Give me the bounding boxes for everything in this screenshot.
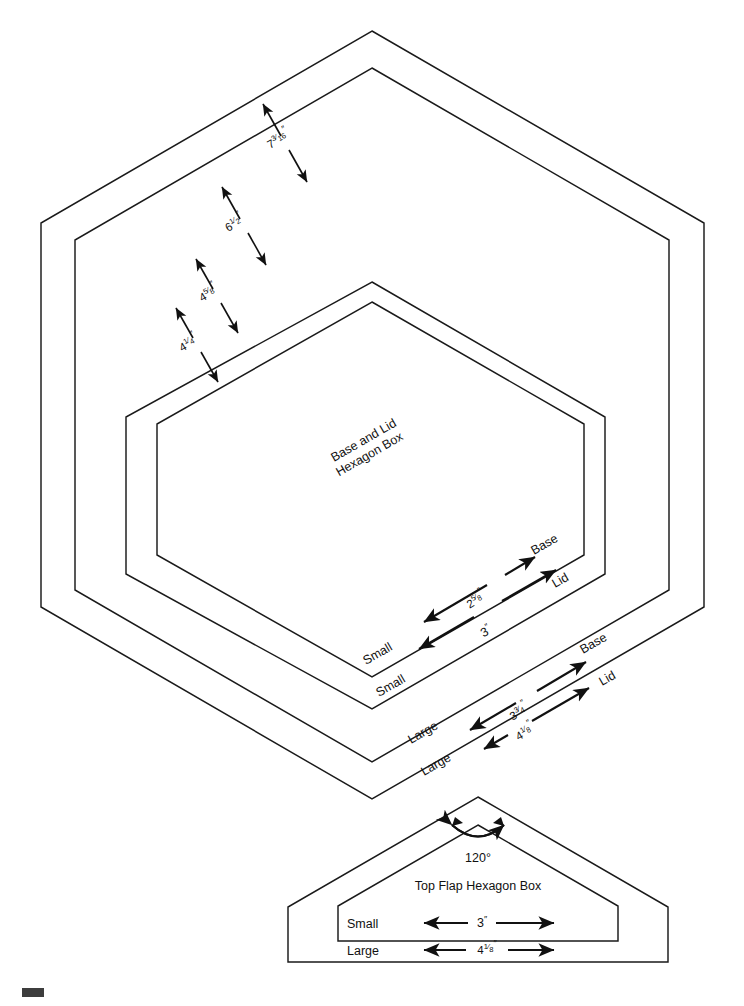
svg-text:Large: Large (419, 750, 454, 778)
dimension-label-4-5-8: 45⁄8″ (194, 278, 220, 304)
hexagon-small-base-outline (126, 282, 605, 709)
main-title-group: Base and Lid Hexagon Box (326, 416, 406, 479)
angle-arc-120 (452, 817, 504, 837)
svg-text:Small: Small (374, 672, 408, 700)
dimension-label-6-1-2: 61⁄2″ (220, 208, 246, 234)
edge-label-large-2: Large (419, 750, 454, 778)
dimension-arrow-4-1-8 (484, 688, 589, 749)
hexagon-small-lid-outline (157, 302, 584, 677)
svg-text:Base: Base (529, 531, 561, 557)
flap-title: Top Flap Hexagon Box (415, 879, 542, 893)
edge-label-lid-2: Lid (597, 668, 618, 688)
svg-text:73⁄16″: 73⁄16″ (262, 123, 292, 151)
svg-text:45⁄8″: 45⁄8″ (194, 278, 220, 304)
diagram-canvas: 73⁄16″ 61⁄2″ 45⁄8″ (0, 0, 744, 1006)
svg-text:61⁄2″: 61⁄2″ (220, 208, 246, 234)
hexagon-box-template-svg: 73⁄16″ 61⁄2″ 45⁄8″ (0, 0, 744, 1006)
flap-dim-s-unit: ″ (484, 914, 488, 924)
dimension-label-4-1-4: 41⁄4″ (174, 328, 200, 354)
svg-text:Large: Large (406, 718, 441, 746)
svg-text:Small: Small (361, 640, 395, 668)
flap-label-small: Small (347, 917, 378, 931)
svg-text:Lid: Lid (597, 668, 618, 688)
edge-label-large-1: Large (406, 718, 441, 746)
edge-label-small-2: Small (374, 672, 408, 700)
flap-label-large: Large (347, 944, 379, 958)
svg-text:3″: 3″ (477, 621, 494, 640)
angle-label-120: 120° (465, 851, 491, 865)
flap-dim-l-unit: ″ (493, 938, 497, 948)
flap-dim-s-whole: 3 (477, 916, 484, 930)
flap-dimension-label-small: 3″ (477, 914, 488, 930)
svg-text:41⁄4″: 41⁄4″ (174, 328, 200, 354)
corner-registration-mark (22, 988, 44, 997)
dimension-label-7-3-16: 73⁄16″ (262, 123, 292, 151)
dimension-label-3: 3″ (477, 621, 494, 640)
edge-label-base-1: Base (529, 531, 561, 557)
edge-label-small-1: Small (361, 640, 395, 668)
